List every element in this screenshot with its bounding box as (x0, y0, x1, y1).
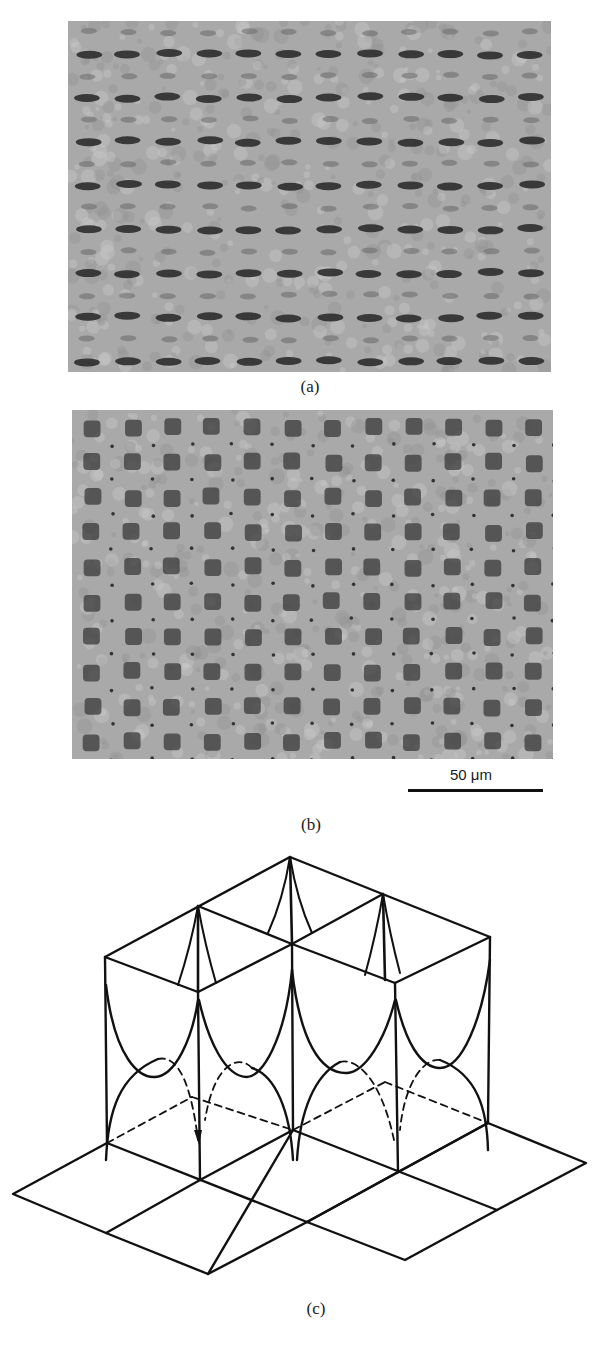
micrograph-b-image (72, 410, 553, 759)
schematic-c (0, 840, 609, 1290)
schematic-c-drawing (0, 840, 609, 1290)
caption-a: (a) (280, 377, 340, 397)
top-grid (105, 857, 490, 992)
micrograph-b (72, 410, 553, 759)
ground-grid-inner (200, 1123, 488, 1222)
caption-c: (c) (286, 1299, 346, 1319)
caption-b: (b) (281, 815, 341, 835)
micrograph-a (68, 21, 551, 372)
micrograph-a-image (68, 21, 551, 372)
scale-bar (408, 789, 543, 792)
ground-grid (13, 1123, 586, 1274)
top-cusps (178, 857, 400, 992)
hidden-lines (107, 1059, 488, 1143)
scale-bar-label: 50 μm (450, 766, 492, 783)
